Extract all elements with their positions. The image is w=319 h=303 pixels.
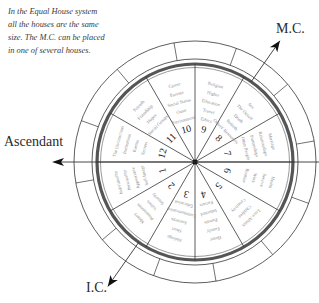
ic-arrow-icon [108, 275, 118, 287]
mc-label: M.C. [276, 21, 305, 37]
mc-arrow-icon [270, 41, 280, 53]
ic-label: I.C. [86, 280, 107, 296]
equal-house-wheel: 1IndividualityPersonalityAppearanceSelf-… [0, 0, 319, 303]
ascendant-label: Ascendant [4, 134, 63, 150]
